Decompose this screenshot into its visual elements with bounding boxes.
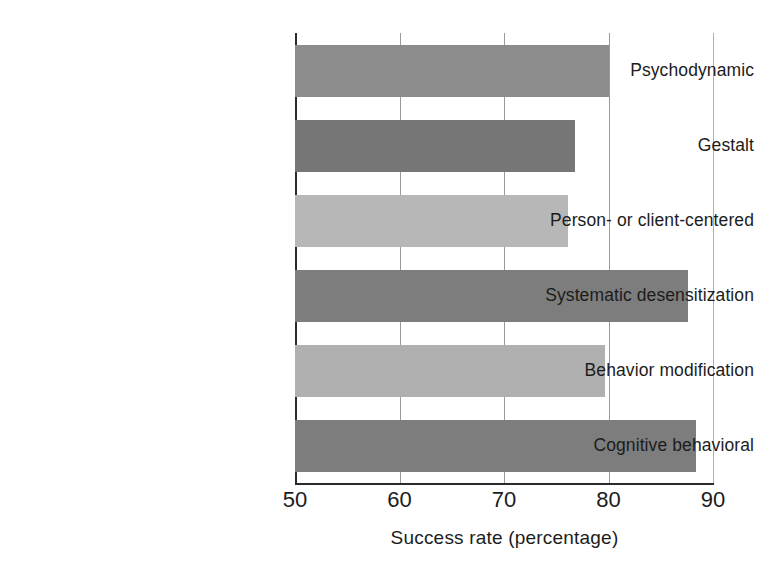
category-label: Psychodynamic — [480, 62, 765, 80]
gridline-80 — [609, 33, 610, 483]
x-tick-label: 60 — [365, 489, 435, 511]
x-tick-label: 70 — [469, 489, 539, 511]
x-axis-title: Success rate (percentage) — [295, 528, 714, 547]
gridline-90 — [713, 33, 714, 483]
gridline-50 — [295, 33, 297, 483]
plot-area — [295, 33, 713, 483]
chart-page: PsychodynamicGestaltPerson- or client-ce… — [0, 0, 765, 585]
category-label: Behavior modification — [480, 362, 765, 380]
category-label: Systematic desensitization — [480, 287, 765, 305]
x-tick-label: 90 — [678, 489, 748, 511]
x-tick-label: 80 — [574, 489, 644, 511]
x-tick-label: 50 — [260, 489, 330, 511]
horizontal-bar-chart: PsychodynamicGestaltPerson- or client-ce… — [0, 0, 765, 585]
gridline-60 — [400, 33, 401, 483]
category-label: Person- or client-centered — [480, 212, 765, 230]
category-label: Cognitive behavioral — [480, 437, 765, 455]
category-label: Gestalt — [480, 137, 765, 155]
gridline-70 — [504, 33, 505, 483]
x-axis-line — [295, 483, 714, 485]
